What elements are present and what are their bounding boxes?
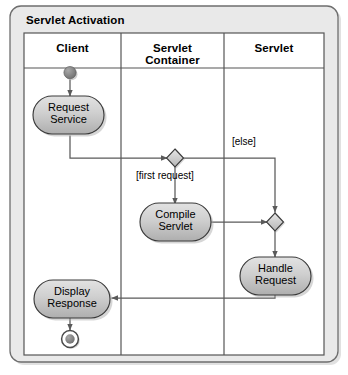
node-label-compile-servlet-line1: Compile xyxy=(155,208,195,220)
guard-label-else: [else] xyxy=(232,137,256,148)
node-label-handle-request-line1: Handle xyxy=(258,262,293,274)
node-label-request-service-line2: Service xyxy=(50,113,87,125)
node-label-display-response: DisplayResponse xyxy=(34,286,110,310)
guard-label-first-request: [first request] xyxy=(136,171,194,182)
activity-diagram: Servlet Activation Client ServletContain… xyxy=(0,0,348,375)
node-label-request-service-line1: Request xyxy=(48,101,89,113)
node-label-compile-servlet: CompileServlet xyxy=(140,209,211,233)
node-label-request-service: RequestService xyxy=(33,102,104,126)
frame-title: Servlet Activation xyxy=(26,14,125,26)
lane-header-servlet-container: ServletContainer xyxy=(121,42,224,67)
lane-header-servlet-container-line2: Container xyxy=(145,54,200,66)
node-label-display-response-line2: Response xyxy=(47,297,97,309)
final-node xyxy=(62,331,80,349)
node-label-display-response-line1: Display xyxy=(54,285,90,297)
node-label-handle-request: HandleRequest xyxy=(240,263,311,287)
lane-header-client: Client xyxy=(24,42,121,54)
lane-header-servlet-container-line1: Servlet xyxy=(153,42,192,54)
node-label-handle-request-line2: Request xyxy=(255,274,296,286)
node-label-compile-servlet-line2: Servlet xyxy=(158,220,192,232)
lane-header-servlet: Servlet xyxy=(224,42,324,54)
